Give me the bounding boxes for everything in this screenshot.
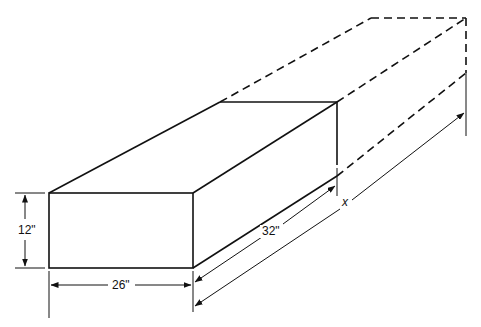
box-drawing: [0, 0, 481, 327]
length-label: 32": [260, 225, 282, 238]
unknown-length-label: x: [340, 196, 350, 209]
width-label: 26": [110, 279, 132, 292]
height-label: 12": [16, 224, 38, 237]
solid-box: [49, 102, 337, 268]
dimension-lines: [15, 73, 466, 318]
